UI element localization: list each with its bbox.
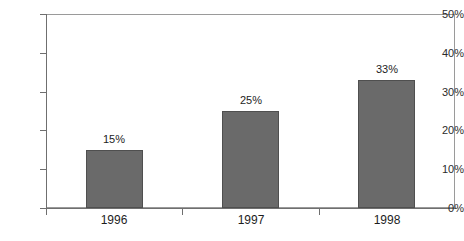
y-axis-tick-label: 10% <box>428 164 464 175</box>
x-axis-category-label: 1997 <box>238 213 265 227</box>
x-axis-line <box>46 208 456 209</box>
bar-value-label: 33% <box>376 63 398 75</box>
y-axis-tick <box>40 92 46 93</box>
bar <box>86 150 143 208</box>
y-axis-tick-label: 30% <box>428 86 464 97</box>
x-axis-category-label: 1996 <box>101 213 128 227</box>
bar-chart: 0%10%20%30%40%50% 15%25%33% 199619971998 <box>0 0 464 241</box>
y-axis-tick <box>40 53 46 54</box>
y-axis-tick-label: 40% <box>428 47 464 58</box>
x-axis-tick <box>319 209 320 215</box>
y-axis-tick <box>40 169 46 170</box>
y-axis-line <box>46 14 47 209</box>
x-axis-category-label: 1998 <box>374 213 401 227</box>
y-axis-tick <box>40 130 46 131</box>
bar <box>222 111 279 208</box>
y-axis-tick-label: 20% <box>428 125 464 136</box>
bar <box>358 80 415 208</box>
y-axis-tick-label: 0% <box>428 203 464 214</box>
x-axis-tick <box>182 209 183 215</box>
x-axis-tick <box>46 209 47 215</box>
y-axis-tick-label: 50% <box>428 9 464 20</box>
bar-value-label: 25% <box>240 94 262 106</box>
bar-value-label: 15% <box>103 133 125 145</box>
y-axis-tick <box>40 14 46 15</box>
